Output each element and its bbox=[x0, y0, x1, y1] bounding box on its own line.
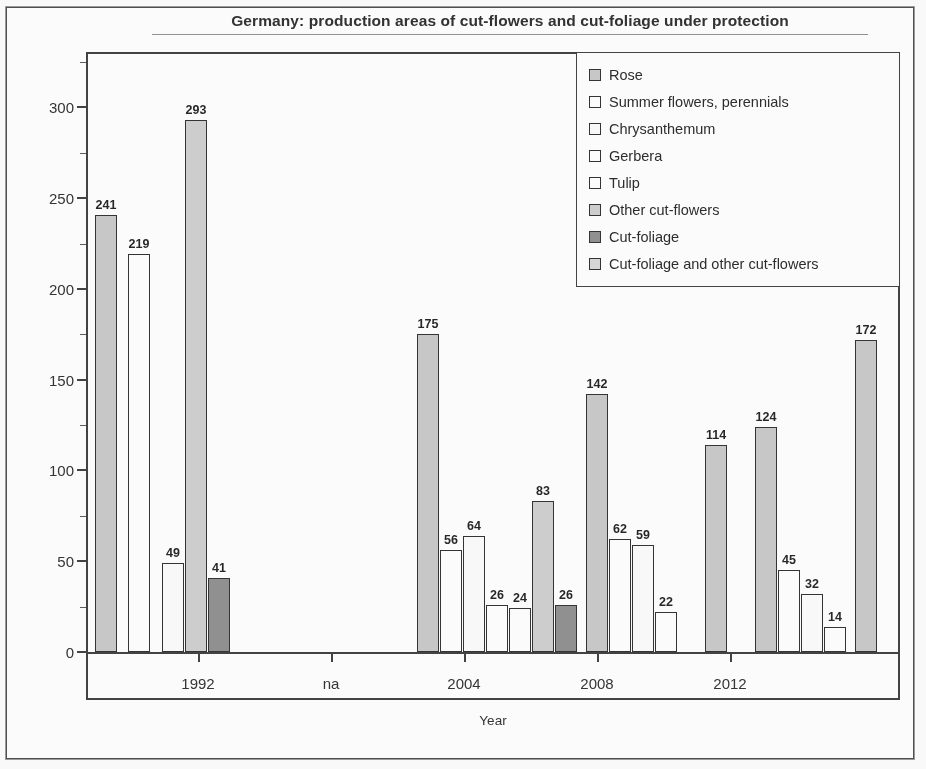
x-axis-tick-label: 2008 bbox=[580, 675, 613, 692]
y-axis-tick-label: 300 bbox=[49, 99, 74, 116]
legend-swatch-icon bbox=[589, 258, 601, 270]
legend-item-label: Rose bbox=[609, 67, 643, 83]
bar-value-label: 49 bbox=[166, 546, 180, 560]
bar bbox=[463, 536, 485, 652]
bar-value-label: 142 bbox=[587, 377, 608, 391]
bar bbox=[417, 334, 439, 652]
y-axis-tick-minor bbox=[80, 516, 86, 517]
y-axis-tick-major bbox=[77, 288, 86, 290]
y-axis-tick-major bbox=[77, 651, 86, 653]
chart-title: Germany: production areas of cut-flowers… bbox=[160, 8, 860, 34]
bar bbox=[128, 254, 150, 652]
y-axis-tick-major bbox=[77, 106, 86, 108]
bar-value-label: 59 bbox=[636, 528, 650, 542]
legend-swatch-icon bbox=[589, 231, 601, 243]
bar bbox=[555, 605, 577, 652]
bar-value-label: 241 bbox=[96, 198, 117, 212]
legend-item-label: Summer flowers, perennials bbox=[609, 94, 789, 110]
bar-value-label: 293 bbox=[186, 103, 207, 117]
y-axis-tick-minor bbox=[80, 153, 86, 154]
y-axis-line bbox=[86, 52, 88, 700]
chart-screenshot: Germany: production areas of cut-flowers… bbox=[0, 0, 926, 769]
bar-value-label: 14 bbox=[828, 610, 842, 624]
bar-value-label: 56 bbox=[444, 533, 458, 547]
y-axis-tick-label: 0 bbox=[66, 644, 74, 661]
x-axis-line bbox=[86, 652, 898, 654]
legend-rows: RoseSummer flowers, perennialsChrysanthe… bbox=[589, 61, 889, 277]
y-axis-tick-minor bbox=[80, 334, 86, 335]
x-axis-tick bbox=[198, 652, 200, 662]
bar bbox=[609, 539, 631, 652]
bar bbox=[486, 605, 508, 652]
bar-value-label: 172 bbox=[856, 323, 877, 337]
legend-swatch-icon bbox=[589, 204, 601, 216]
legend-item-label: Gerbera bbox=[609, 148, 662, 164]
x-axis-tick-label: 2012 bbox=[713, 675, 746, 692]
legend-item-label: Cut-foliage and other cut-flowers bbox=[609, 256, 819, 272]
bar bbox=[95, 215, 117, 653]
bar bbox=[824, 627, 846, 652]
y-axis-tick-major bbox=[77, 197, 86, 199]
y-axis-tick-label: 50 bbox=[57, 553, 74, 570]
bar bbox=[801, 594, 823, 652]
y-axis-tick-label: 200 bbox=[49, 280, 74, 297]
bar bbox=[705, 445, 727, 652]
legend-swatch-icon bbox=[589, 96, 601, 108]
y-axis-tick-label: 150 bbox=[49, 371, 74, 388]
title-divider bbox=[152, 34, 868, 35]
legend-item: Rose bbox=[589, 61, 889, 88]
bar-value-label: 175 bbox=[418, 317, 439, 331]
y-axis-tick-minor bbox=[80, 244, 86, 245]
y-axis-tick-label: 250 bbox=[49, 190, 74, 207]
legend-swatch-icon bbox=[589, 69, 601, 81]
legend: RoseSummer flowers, perennialsChrysanthe… bbox=[576, 52, 900, 287]
bar bbox=[532, 501, 554, 652]
x-axis-tick bbox=[597, 652, 599, 662]
legend-item: Chrysanthemum bbox=[589, 115, 889, 142]
x-axis-tick-label: 1992 bbox=[181, 675, 214, 692]
bar bbox=[162, 563, 184, 652]
chart-title-text: Germany: production areas of cut-flowers… bbox=[231, 12, 789, 30]
y-axis-tick-major bbox=[77, 469, 86, 471]
legend-item: Gerbera bbox=[589, 142, 889, 169]
legend-item: Cut-foliage bbox=[589, 223, 889, 250]
bar-value-label: 62 bbox=[613, 522, 627, 536]
bar bbox=[755, 427, 777, 652]
legend-item-label: Other cut-flowers bbox=[609, 202, 719, 218]
bar bbox=[855, 340, 877, 652]
legend-swatch-icon bbox=[589, 150, 601, 162]
y-axis-tick-label: 100 bbox=[49, 462, 74, 479]
x-axis-tick-label: 2004 bbox=[447, 675, 480, 692]
x-axis-tick bbox=[464, 652, 466, 662]
bar bbox=[586, 394, 608, 652]
y-axis-tick-major bbox=[77, 379, 86, 381]
x-axis-title: Year bbox=[86, 713, 900, 728]
legend-item-label: Tulip bbox=[609, 175, 640, 191]
bar-value-label: 24 bbox=[513, 591, 527, 605]
bar-value-label: 41 bbox=[212, 561, 226, 575]
legend-item: Tulip bbox=[589, 169, 889, 196]
y-axis-tick-minor bbox=[80, 607, 86, 608]
legend-item: Cut-foliage and other cut-flowers bbox=[589, 250, 889, 277]
bar bbox=[655, 612, 677, 652]
legend-swatch-icon bbox=[589, 123, 601, 135]
bar bbox=[778, 570, 800, 652]
bar-value-label: 124 bbox=[756, 410, 777, 424]
legend-item: Summer flowers, perennials bbox=[589, 88, 889, 115]
bar bbox=[208, 578, 230, 652]
x-axis-tick-label: na bbox=[323, 675, 340, 692]
x-axis-tick bbox=[730, 652, 732, 662]
y-axis-tick-minor bbox=[80, 62, 86, 63]
y-axis-tick-minor bbox=[80, 425, 86, 426]
bar-value-label: 219 bbox=[129, 237, 150, 251]
bar-value-label: 22 bbox=[659, 595, 673, 609]
bar-value-label: 26 bbox=[490, 588, 504, 602]
bar-value-label: 114 bbox=[706, 428, 726, 442]
bar bbox=[185, 120, 207, 652]
legend-item-label: Chrysanthemum bbox=[609, 121, 715, 137]
x-axis-tick bbox=[331, 652, 333, 662]
legend-item: Other cut-flowers bbox=[589, 196, 889, 223]
bar-value-label: 26 bbox=[559, 588, 573, 602]
legend-swatch-icon bbox=[589, 177, 601, 189]
y-axis-tick-major bbox=[77, 560, 86, 562]
